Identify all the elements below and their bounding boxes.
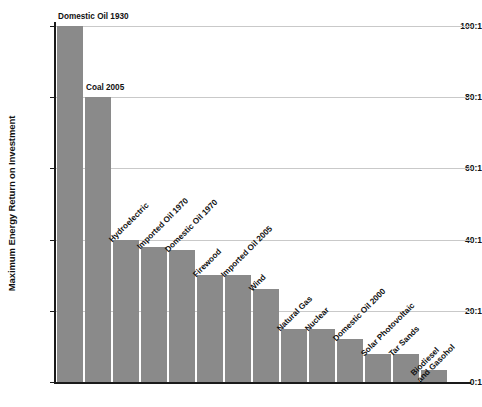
bar — [85, 97, 111, 382]
gridline — [56, 97, 471, 98]
y-tick-mark — [50, 382, 56, 383]
gridline — [56, 26, 471, 27]
bar — [113, 240, 139, 382]
x-axis-line — [54, 382, 471, 384]
bar — [141, 247, 167, 382]
bar-category-label: Coal 2005 — [86, 84, 124, 93]
bar — [57, 26, 83, 382]
bar — [169, 250, 195, 382]
bar — [253, 289, 279, 382]
y-axis-title: Maximum Energy Return on Investment — [0, 0, 22, 407]
bar — [197, 275, 223, 382]
chart-figure: Maximum Energy Return on Investment 0:12… — [0, 0, 482, 407]
bar — [337, 339, 363, 382]
bar-category-label: Domestic Oil 1930 — [58, 13, 129, 22]
bar — [281, 329, 307, 382]
gridline — [56, 168, 471, 169]
bar — [365, 354, 391, 382]
bar — [225, 275, 251, 382]
